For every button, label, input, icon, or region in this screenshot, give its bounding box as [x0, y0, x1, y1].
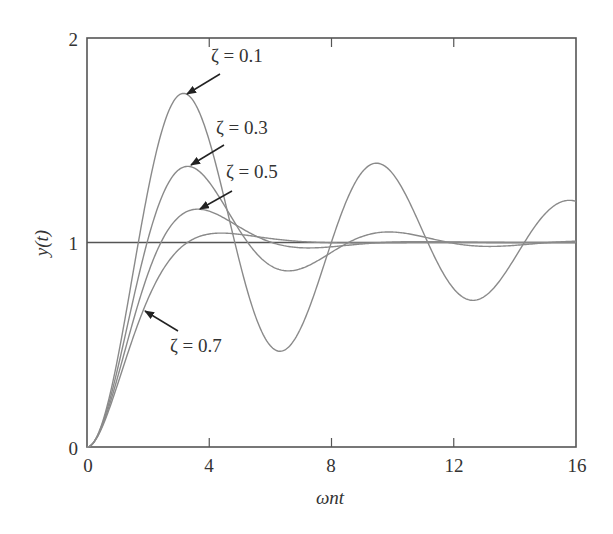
x-axis-label: ωnt	[316, 487, 345, 508]
y-tick-label: 2	[69, 29, 79, 50]
curve-zeta-0-3	[87, 166, 576, 447]
annotation-zeta-0-5: ζ = 0.5	[226, 161, 278, 182]
x-tick-label: 8	[326, 455, 336, 476]
curve-zeta-0-1	[87, 93, 576, 447]
annotation-zeta-0-7: ζ = 0.7	[170, 335, 222, 356]
arrow-zeta-0-5	[200, 191, 232, 209]
x-tick-label: 12	[445, 455, 464, 476]
x-tick-label: 16	[568, 455, 587, 476]
step-response-chart: 0 4 8 12 16 0 1 2 ωnt y(t) ζ = 0.1 ζ = 0…	[0, 0, 613, 534]
curve-zeta-0-5	[87, 209, 576, 447]
y-tick-label: 1	[69, 233, 79, 254]
x-tick-label: 0	[83, 455, 93, 476]
y-tick-label: 0	[69, 438, 79, 459]
arrow-zeta-0-1	[187, 74, 220, 94]
arrow-zeta-0-3	[191, 145, 224, 165]
annotation-zeta-0-3: ζ = 0.3	[216, 117, 268, 138]
curve-zeta-0-7	[87, 233, 576, 447]
response-curves	[87, 93, 576, 447]
arrow-zeta-0-7	[145, 311, 178, 331]
y-axis-label: y(t)	[31, 230, 53, 258]
annotation-zeta-0-1: ζ = 0.1	[211, 45, 263, 66]
x-tick-label: 4	[204, 455, 214, 476]
